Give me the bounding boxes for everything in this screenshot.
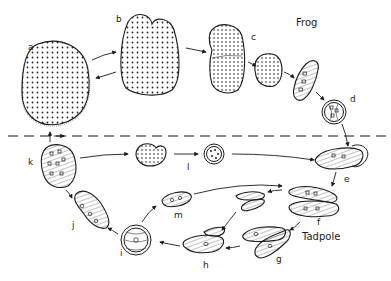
arrow-m-to-f bbox=[194, 185, 282, 194]
arrow-c2-to-elongate bbox=[284, 72, 294, 78]
stage-d-cyst bbox=[322, 100, 346, 124]
stage-c-small-cell bbox=[255, 54, 282, 87]
stage-h-cell bbox=[183, 227, 225, 253]
stage-label-e: e bbox=[344, 174, 350, 184]
stage-label-i: i bbox=[120, 248, 123, 258]
stage-label-g: g bbox=[276, 254, 282, 264]
life-cycle-diagram: Frog Tadpole a b c bbox=[0, 0, 391, 281]
stage-label-c: c bbox=[251, 32, 256, 42]
stage-a-cell bbox=[21, 41, 89, 126]
stage-label-l: l bbox=[187, 162, 190, 172]
stage-e-cell bbox=[315, 145, 368, 169]
stage-c-cell bbox=[209, 25, 244, 93]
stage-i-cyst bbox=[121, 225, 151, 255]
stage-j-cell bbox=[75, 191, 109, 228]
stage-label-j: j bbox=[71, 220, 75, 230]
stage-label-d: d bbox=[350, 94, 356, 104]
stage-k-cell bbox=[41, 145, 76, 188]
stage-c-elongate-cell bbox=[293, 61, 318, 101]
arrow-b-to-c bbox=[186, 48, 206, 52]
stage-label-f: f bbox=[317, 217, 321, 227]
region-label-tadpole: Tadpole bbox=[301, 231, 340, 242]
stage-label-k: k bbox=[28, 157, 34, 167]
arrow-to-d bbox=[316, 92, 324, 100]
arrow-a-to-b bbox=[92, 52, 116, 60]
stage-l-cyst bbox=[204, 144, 224, 164]
stage-label-b: b bbox=[116, 14, 122, 24]
stage-f-cell bbox=[289, 187, 339, 217]
arrow-k-to-j bbox=[66, 190, 72, 198]
region-label-frog: Frog bbox=[296, 17, 317, 28]
stage-b-cell bbox=[121, 15, 179, 95]
arrow-gametes-to-h bbox=[222, 212, 236, 230]
stage-l-dividing-cell bbox=[136, 144, 166, 166]
arrow-g-to-h bbox=[226, 246, 240, 248]
arrow-k-to-l-division bbox=[80, 154, 128, 158]
stage-label-a: a bbox=[28, 42, 34, 52]
arrow-e-to-f bbox=[332, 172, 336, 186]
arrow-f-to-gametes bbox=[268, 190, 282, 192]
arrow-i-to-j bbox=[108, 228, 118, 234]
stage-gamete-pair-cell bbox=[236, 192, 264, 211]
arrow-i-to-m bbox=[142, 206, 156, 222]
stage-label-m: m bbox=[174, 210, 183, 220]
stage-label-h: h bbox=[203, 260, 209, 270]
arrow-d-to-e bbox=[342, 124, 348, 146]
stage-m-cell bbox=[162, 192, 191, 207]
arrow-b-to-a bbox=[96, 72, 116, 78]
arrow-f-to-g bbox=[290, 222, 300, 230]
stage-g-cell bbox=[243, 227, 291, 258]
arrow-h-to-i bbox=[160, 242, 180, 246]
arrow-l-to-e bbox=[232, 154, 314, 160]
